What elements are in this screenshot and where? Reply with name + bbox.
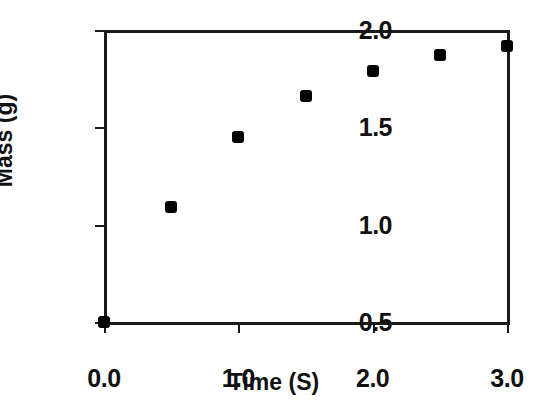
y-axis-title: Mass (g) [0,94,18,187]
data-point [501,40,513,52]
data-point [434,49,446,61]
y-tick-label: 1.0 [322,210,392,239]
y-tick-mark [95,225,105,227]
plot-area: 0.51.01.52.0 0.01.02.03.0 [104,30,510,325]
data-point [367,65,379,77]
x-axis-title: Time (S) [0,369,548,396]
axis-right-spine [507,30,510,325]
y-tick-label: 1.5 [322,113,392,142]
axis-left-spine [104,30,107,325]
data-point [165,201,177,213]
axis-top-spine [104,30,510,33]
data-point [232,131,244,143]
axis-bottom-spine [104,322,510,325]
y-tick-mark [95,127,105,129]
data-point [300,90,312,102]
chart-figure: 0.51.01.52.0 0.01.02.03.0 Mass (g) Time … [0,0,548,414]
x-tick-mark [507,323,509,333]
x-tick-mark [238,323,240,333]
y-tick-label: 2.0 [322,16,392,45]
y-tick-mark [95,30,105,32]
y-tick-label: 0.5 [322,308,392,337]
data-point [98,316,110,328]
